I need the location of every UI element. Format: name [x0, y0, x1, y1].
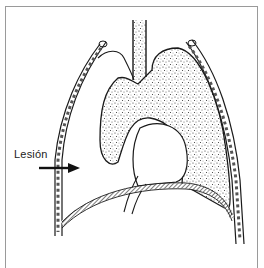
- collapsed-lung: [98, 51, 134, 80]
- lesion-label: Lesión: [14, 148, 48, 160]
- diaphragm: [62, 186, 232, 224]
- trachea: [133, 20, 146, 80]
- heart: [133, 124, 187, 186]
- chest-illustration: [0, 0, 264, 268]
